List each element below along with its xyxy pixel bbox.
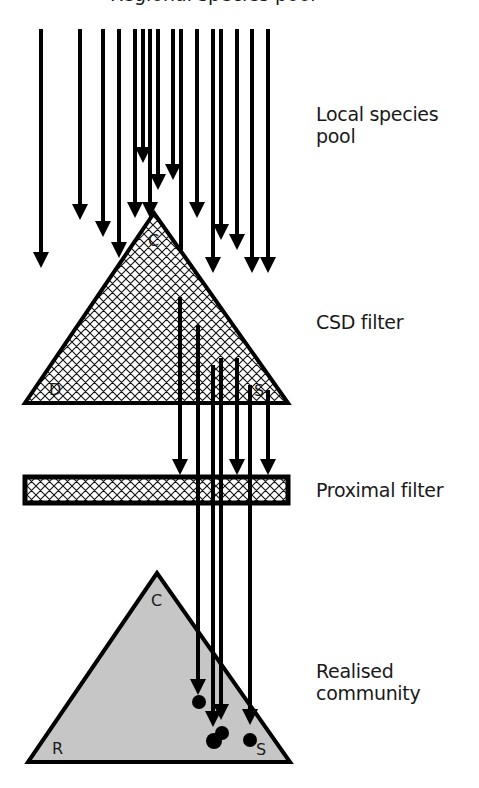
label-csd-filter: CSD filter — [316, 311, 403, 333]
label-proximal-filter: Proximal filter — [316, 479, 443, 501]
arrow-down-icon — [260, 257, 276, 273]
arrow-down-icon — [213, 224, 229, 240]
label-realised-community: Realised community — [316, 660, 420, 704]
arrow-down-icon — [260, 459, 276, 475]
arrow-down-icon — [165, 164, 181, 180]
realised-triangle-corner-right: S — [256, 740, 266, 759]
arrow-down-icon — [127, 202, 143, 218]
arrow-down-icon — [205, 257, 221, 273]
arrow-down-icon — [229, 459, 245, 475]
csd-filter-triangle: CDS — [25, 213, 288, 403]
arrow-down-icon — [189, 202, 205, 218]
arrow-down-icon — [172, 459, 188, 475]
species-dot-icon — [192, 695, 206, 709]
label-local-species-pool-line1: Local species — [316, 103, 438, 125]
realised-triangle-corner-top: C — [151, 591, 162, 610]
arrow-down-icon — [72, 204, 88, 220]
arrow-down-icon — [229, 234, 245, 250]
species-dot-icon — [243, 733, 257, 747]
label-local-species-pool: Local species pool — [316, 103, 438, 147]
label-realised-line2: community — [316, 682, 420, 704]
arrow-down-icon — [33, 252, 49, 268]
label-local-species-pool-line2: pool — [316, 125, 438, 147]
arrow-down-icon — [150, 174, 166, 190]
species-dot-icon — [215, 726, 229, 740]
csd-triangle-corner-left: D — [49, 380, 61, 399]
label-realised-line1: Realised — [316, 660, 420, 682]
arrow-down-icon — [244, 257, 260, 273]
realised-triangle-corner-left: R — [52, 739, 63, 758]
csd-triangle-corner-top: C — [148, 231, 159, 250]
arrow-down-icon — [95, 221, 111, 237]
csd-triangle-corner-right: S — [254, 381, 264, 400]
